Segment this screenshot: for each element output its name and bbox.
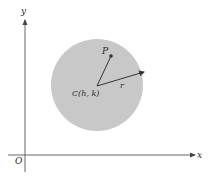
y-axis-label: y bbox=[20, 6, 27, 16]
x-axis-label: x bbox=[197, 150, 202, 160]
point-p-dot bbox=[109, 54, 113, 58]
point-label: P bbox=[101, 46, 109, 56]
origin-label: O bbox=[15, 156, 23, 166]
center-label: C(h, k) bbox=[72, 89, 99, 98]
circle-diagram: y x O P C(h, k) r bbox=[0, 0, 209, 177]
